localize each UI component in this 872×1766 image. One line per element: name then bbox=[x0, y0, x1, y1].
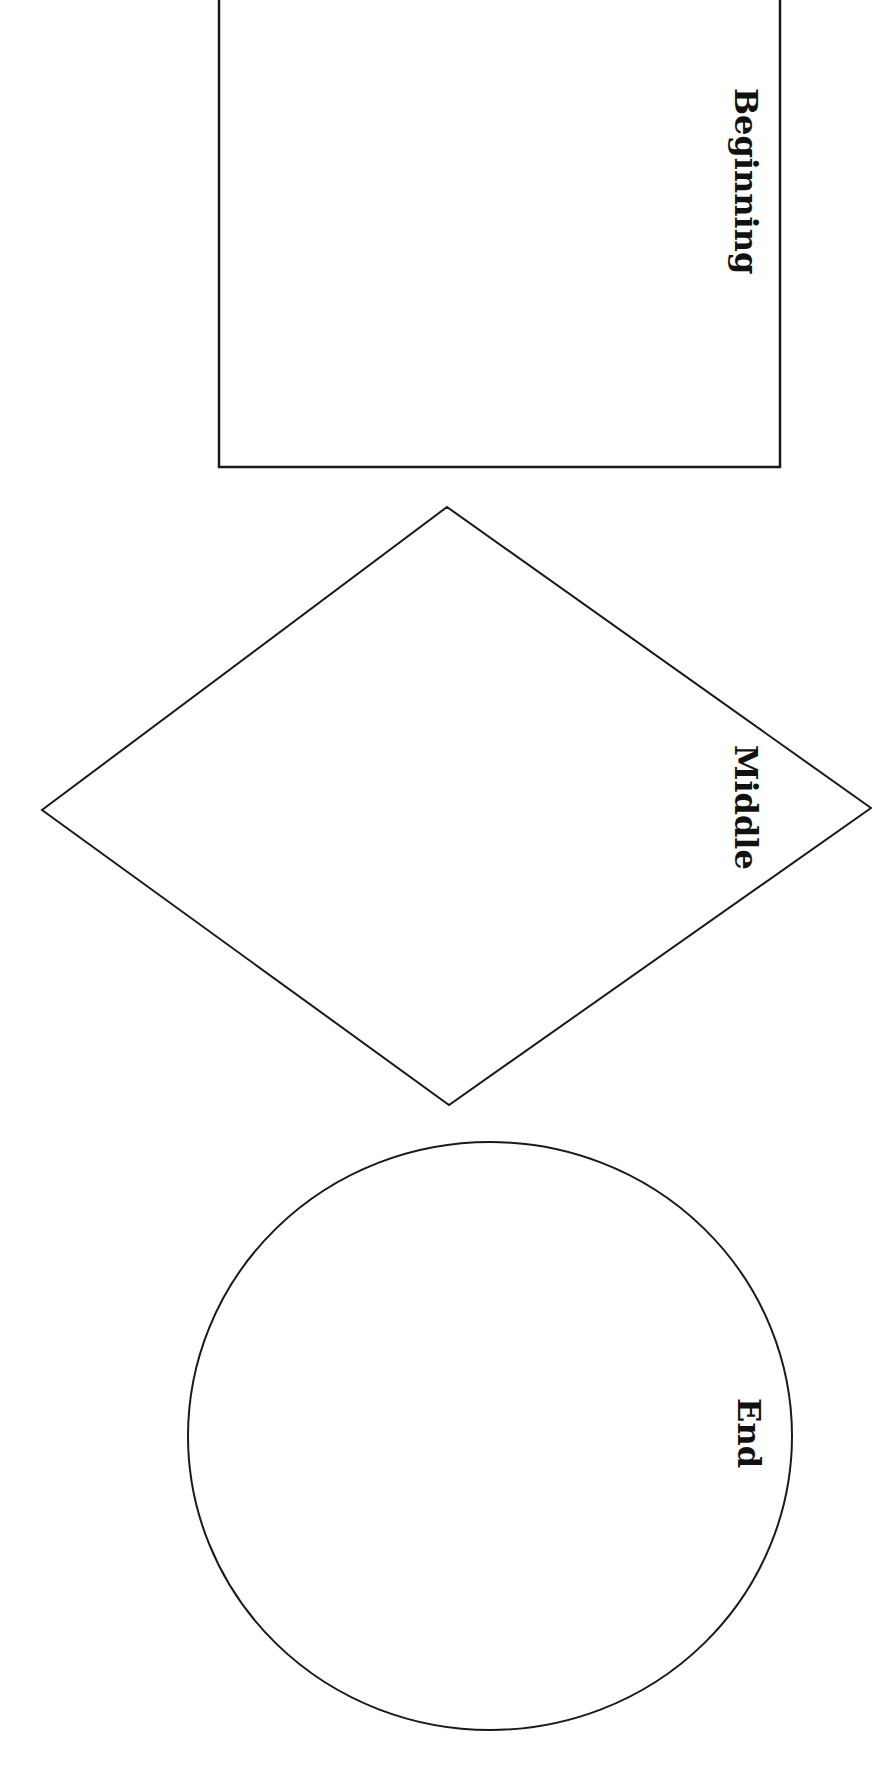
end-circle bbox=[188, 1142, 792, 1730]
beginning-label: Beginning bbox=[730, 88, 762, 274]
end-label: End bbox=[733, 1398, 765, 1468]
middle-label: Middle bbox=[730, 745, 762, 870]
beginning-box bbox=[219, 0, 780, 467]
